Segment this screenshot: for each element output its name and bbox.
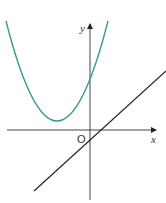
origin-label: O <box>77 133 86 145</box>
linear-line <box>34 71 166 191</box>
parabola-curve <box>6 21 108 121</box>
x-axis-label: x <box>150 133 156 145</box>
y-axis-label: y <box>79 22 85 34</box>
graph: y x O <box>0 0 166 203</box>
